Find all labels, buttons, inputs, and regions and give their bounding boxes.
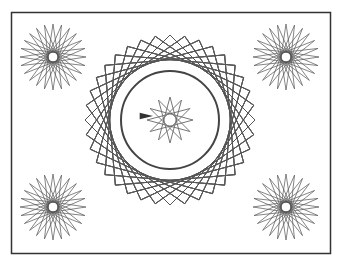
drawing-canvas <box>0 0 341 270</box>
